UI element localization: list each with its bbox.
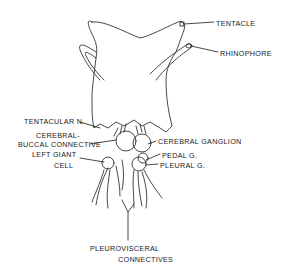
label-left-giant-2: CELL — [54, 162, 73, 169]
label-tentacular-n: TENTACULAR N. — [24, 118, 84, 125]
left-rhinophore — [80, 45, 104, 80]
label-rhinophore: RHINOPHORE — [220, 50, 272, 57]
label-pleurovisceral-1: PLEUROVISCERAL — [90, 245, 159, 252]
label-tentacle: TENTACLE — [216, 20, 255, 27]
leader-tentacle — [184, 22, 214, 24]
head-outline — [88, 21, 184, 132]
leader-pleural — [146, 164, 158, 165]
leader-rhinophore — [191, 46, 218, 52]
leader-left-giant — [80, 158, 104, 162]
label-pleural-g: PLEURAL G. — [160, 162, 205, 169]
label-cerebral-buccal-1: CEREBRAL- — [36, 132, 80, 139]
label-cerebral-buccal-2: BUCCAL CONNECTIVE — [18, 141, 101, 148]
label-pleurovisceral-2: CONNECTIVES — [118, 256, 173, 263]
left-pedal-pleural — [102, 157, 114, 169]
right-pedal-pleural — [132, 157, 146, 171]
label-pedal-g: PEDAL G. — [162, 152, 197, 159]
label-cerebral-ganglion: CEREBRAL GANGLION — [158, 138, 242, 145]
leader-cerebral-ganglion — [148, 141, 156, 144]
label-left-giant-1: LEFT GIANT — [32, 151, 76, 158]
